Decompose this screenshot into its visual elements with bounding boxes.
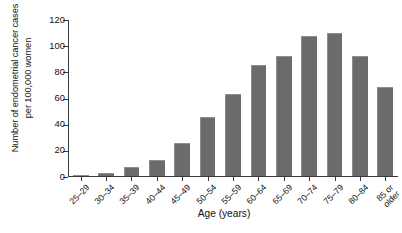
x-tick-mark bbox=[81, 177, 82, 181]
x-tick-mark bbox=[208, 177, 209, 181]
bar bbox=[124, 167, 140, 176]
x-tick-mark bbox=[309, 177, 310, 181]
x-tick-mark bbox=[106, 177, 107, 181]
bar bbox=[251, 65, 267, 176]
x-axis-title-text: Age (years) bbox=[152, 208, 251, 219]
x-tick-mark bbox=[131, 177, 132, 181]
y-tick-label: 120 bbox=[49, 14, 65, 25]
y-axis-line bbox=[68, 20, 69, 177]
x-tick-mark bbox=[284, 177, 285, 181]
bar bbox=[73, 175, 89, 176]
x-tick-mark bbox=[233, 177, 234, 181]
y-tick-label: 40 bbox=[55, 118, 65, 129]
bar bbox=[352, 56, 368, 176]
y-tick-label: 0 bbox=[60, 171, 65, 182]
bar bbox=[377, 87, 393, 176]
y-tick-label: 20 bbox=[55, 144, 65, 155]
bar bbox=[98, 173, 114, 176]
bar bbox=[149, 160, 165, 176]
y-tick-label: 60 bbox=[55, 92, 65, 103]
bar bbox=[276, 56, 292, 176]
y-tick-label: 100 bbox=[49, 40, 65, 51]
y-axis-title: Number of endometrial cancer cases per 1… bbox=[9, 0, 49, 163]
x-tick-mark bbox=[360, 177, 361, 181]
bar bbox=[174, 143, 190, 176]
x-tick-mark bbox=[385, 177, 386, 181]
x-axis-title: Age (years) bbox=[0, 208, 402, 219]
x-tick-mark bbox=[258, 177, 259, 181]
bar bbox=[225, 94, 241, 176]
x-tick-mark bbox=[182, 177, 183, 181]
x-tick-mark bbox=[335, 177, 336, 181]
bar bbox=[327, 33, 343, 176]
x-tick-mark bbox=[157, 177, 158, 181]
bar bbox=[200, 117, 216, 176]
bar bbox=[301, 36, 317, 176]
y-tick-label: 80 bbox=[55, 66, 65, 77]
plot-area: 020406080100120 25–2930–3435–3940–4445–4… bbox=[68, 20, 398, 177]
bar-chart-figure: Number of endometrial cancer cases per 1… bbox=[0, 0, 402, 233]
